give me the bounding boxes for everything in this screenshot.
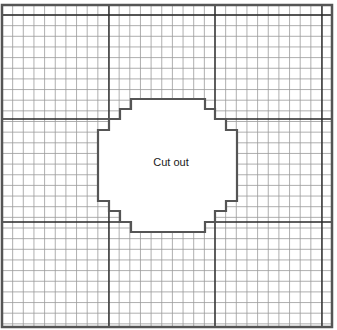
cutout-label: Cut out (153, 156, 188, 168)
